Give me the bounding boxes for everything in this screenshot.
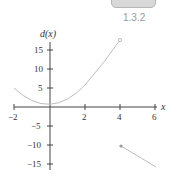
svg-text:2: 2 (82, 112, 87, 122)
svg-text:5: 5 (38, 83, 43, 93)
closed-endpoint (119, 144, 122, 147)
y-axis-label: d(x) (40, 28, 57, 40)
svg-text:6: 6 (152, 112, 157, 122)
x-axis-label: x (160, 101, 166, 112)
svg-text:−10: −10 (27, 140, 42, 150)
svg-text:−2: −2 (8, 112, 18, 122)
svg-text:4: 4 (117, 112, 122, 122)
chart: −2 2 4 6 x 15 10 5 −5 −10 −15 d(x) (0, 0, 172, 177)
open-endpoint (118, 38, 121, 41)
svg-text:10: 10 (34, 64, 44, 74)
linear-segment (121, 146, 156, 167)
parabola-curve (14, 40, 120, 104)
svg-text:−15: −15 (27, 159, 42, 169)
svg-text:−5: −5 (31, 121, 41, 131)
svg-text:15: 15 (34, 45, 44, 55)
